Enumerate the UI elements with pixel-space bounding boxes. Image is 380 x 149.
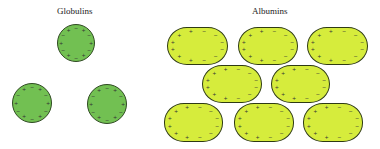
positive-charge-mark: + (310, 47, 315, 52)
positive-charge-mark: + (328, 29, 333, 34)
negative-charge-mark: − (283, 54, 288, 59)
positive-charge-mark: + (237, 124, 242, 129)
positive-charge-mark: + (185, 105, 190, 110)
positive-charge-mark: + (241, 47, 246, 52)
negative-charge-mark: − (236, 67, 241, 72)
negative-charge-mark: − (286, 124, 291, 129)
negative-charge-mark: − (220, 40, 225, 45)
negative-charge-mark: − (254, 78, 259, 83)
negative-charge-mark: − (208, 109, 213, 114)
negative-charge-mark: − (337, 135, 342, 140)
negative-charge-mark: − (272, 29, 277, 34)
positive-charge-mark: + (306, 124, 311, 129)
negative-charge-mark: − (220, 47, 225, 52)
negative-charge-mark: − (105, 86, 110, 91)
positive-charge-mark: + (324, 135, 329, 140)
positive-charge-mark: + (205, 78, 210, 83)
positive-charge-mark: + (14, 101, 19, 106)
positive-charge-mark: + (174, 109, 179, 114)
positive-charge-mark: + (97, 88, 102, 93)
positive-charge-mark: + (177, 33, 182, 38)
positive-charge-mark: + (38, 87, 43, 92)
negative-charge-mark: − (268, 135, 273, 140)
negative-charge-mark: − (337, 105, 342, 110)
positive-charge-mark: + (22, 87, 27, 92)
negative-charge-mark: − (43, 93, 48, 98)
negative-charge-mark: − (290, 47, 295, 52)
negative-charge-mark: − (16, 93, 21, 98)
negative-charge-mark: − (91, 110, 96, 115)
negative-charge-mark: − (353, 33, 358, 38)
positive-charge-mark: + (81, 28, 86, 33)
negative-charge-mark: − (197, 135, 202, 140)
negative-charge-mark: − (30, 85, 35, 90)
positive-charge-mark: + (274, 78, 279, 83)
negative-charge-mark: − (105, 118, 110, 123)
positive-charge-mark: + (89, 41, 94, 46)
negative-charge-mark: − (86, 48, 91, 53)
positive-charge-mark: + (212, 92, 217, 97)
negative-charge-mark: − (61, 48, 66, 53)
negative-charge-mark: − (279, 131, 284, 136)
negative-charge-mark: − (202, 58, 207, 63)
negative-charge-mark: − (304, 96, 309, 101)
negative-charge-mark: − (118, 94, 123, 99)
positive-charge-mark: + (97, 115, 102, 120)
positive-charge-mark: + (81, 53, 86, 58)
positive-charge-mark: + (46, 101, 51, 106)
positive-charge-mark: + (313, 109, 318, 114)
positive-charge-mark: + (38, 114, 43, 119)
negative-charge-mark: − (360, 47, 365, 52)
negative-charge-mark: − (74, 56, 79, 61)
positive-charge-mark: + (255, 105, 260, 110)
positive-charge-mark: + (244, 109, 249, 114)
positive-charge-mark: + (255, 135, 260, 140)
positive-charge-mark: + (66, 53, 71, 58)
negative-charge-mark: − (353, 54, 358, 59)
negative-charge-mark: − (16, 109, 21, 114)
positive-charge-mark: + (59, 41, 64, 46)
negative-charge-mark: − (348, 109, 353, 114)
negative-charge-mark: − (322, 78, 327, 83)
positive-charge-mark: + (170, 40, 175, 45)
positive-charge-mark: + (292, 96, 297, 101)
positive-charge-mark: + (259, 58, 264, 63)
positive-charge-mark: + (237, 116, 242, 121)
positive-charge-mark: + (212, 71, 217, 76)
negative-charge-mark: − (215, 116, 220, 121)
negative-charge-mark: − (118, 110, 123, 115)
positive-charge-mark: + (274, 85, 279, 90)
negative-charge-mark: − (355, 116, 360, 121)
negative-charge-mark: − (202, 29, 207, 34)
positive-charge-mark: + (324, 105, 329, 110)
positive-charge-mark: + (66, 28, 71, 33)
positive-charge-mark: + (241, 40, 246, 45)
negative-charge-mark: − (272, 58, 277, 63)
negative-charge-mark: − (290, 40, 295, 45)
positive-charge-mark: + (205, 85, 210, 90)
negative-charge-mark: − (197, 105, 202, 110)
positive-charge-mark: + (121, 102, 126, 107)
negative-charge-mark: − (61, 33, 66, 38)
positive-charge-mark: + (306, 116, 311, 121)
positive-charge-mark: + (188, 58, 193, 63)
negative-charge-mark: − (247, 71, 252, 76)
positive-charge-mark: + (188, 29, 193, 34)
negative-charge-mark: − (213, 33, 218, 38)
positive-charge-mark: + (89, 102, 94, 107)
positive-charge-mark: + (317, 54, 322, 59)
positive-charge-mark: + (310, 40, 315, 45)
positive-charge-mark: + (223, 96, 228, 101)
positive-charge-mark: + (22, 114, 27, 119)
negative-charge-mark: − (213, 54, 218, 59)
negative-charge-mark: − (247, 92, 252, 97)
positive-charge-mark: + (281, 71, 286, 76)
globulins-title: Globulins (57, 6, 93, 16)
negative-charge-mark: − (355, 124, 360, 129)
positive-charge-mark: + (292, 67, 297, 72)
negative-charge-mark: − (279, 109, 284, 114)
positive-charge-mark: + (185, 135, 190, 140)
positive-charge-mark: + (259, 29, 264, 34)
positive-charge-mark: + (244, 131, 249, 136)
negative-charge-mark: − (215, 124, 220, 129)
